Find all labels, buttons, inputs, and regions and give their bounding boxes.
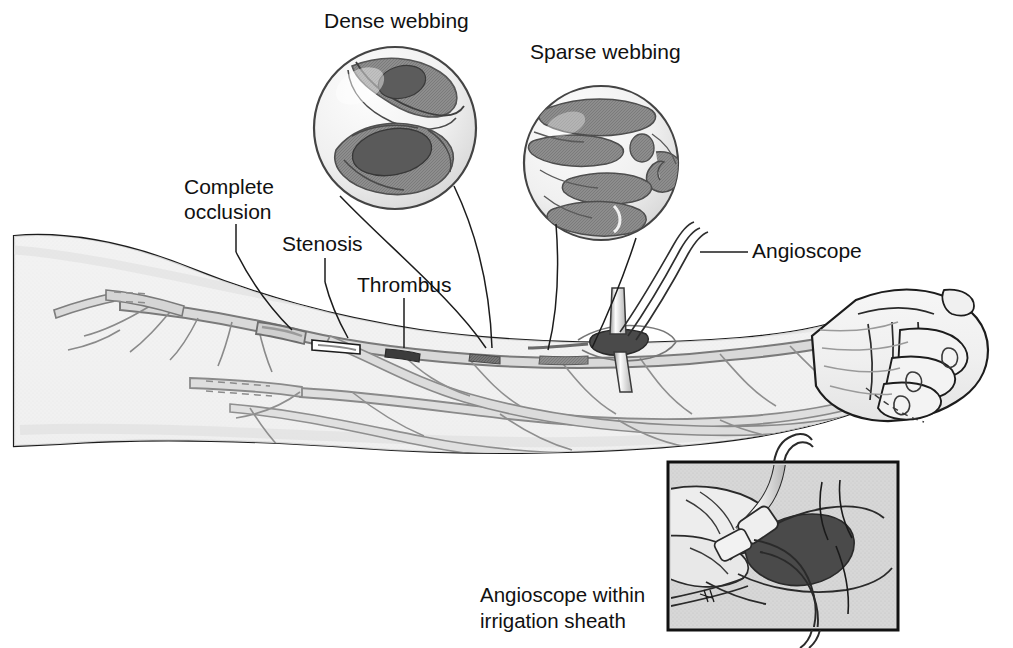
caption-inset-line1: Angioscope within [480,583,645,606]
caption-inset-line2: irrigation sheath [480,609,626,632]
label-dense-webbing: Dense webbing [324,9,469,32]
sparse-channel-small [630,134,654,162]
label-stenosis: Stenosis [282,232,363,255]
photo-inset-content [665,436,895,636]
figure-canvas: Dense webbing Sparse webbing Complete oc… [0,0,1013,648]
label-thrombus: Thrombus [357,273,452,296]
sparse-channel-central [562,173,651,204]
label-complete-occlusion-line1: Complete [184,175,274,198]
photo-inset [665,434,898,648]
sparse-webbing-site [539,356,588,365]
finger-ring [878,382,941,419]
dense-webbing-inset [314,47,476,209]
label-angioscope: Angioscope [752,239,862,262]
medical-illustration: Dense webbing Sparse webbing Complete oc… [0,0,1013,648]
label-complete-occlusion-line2: occlusion [184,200,272,223]
label-sparse-webbing: Sparse webbing [530,40,681,63]
